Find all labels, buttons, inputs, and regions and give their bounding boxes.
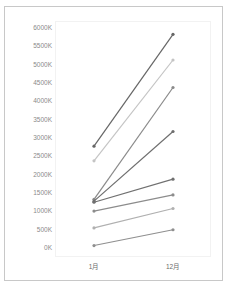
series-line — [94, 209, 173, 228]
data-point-marker — [171, 33, 174, 36]
series-line — [94, 60, 173, 161]
data-point-marker — [171, 58, 174, 61]
line-series — [92, 207, 174, 230]
data-point-marker — [92, 201, 95, 204]
series-line — [94, 34, 173, 146]
line-series — [92, 228, 174, 247]
data-point-marker — [92, 159, 95, 162]
line-series — [92, 58, 174, 162]
series-line — [94, 230, 173, 246]
data-point-marker — [92, 226, 95, 229]
data-point-marker — [171, 178, 174, 181]
line-series-layer — [0, 0, 228, 288]
data-point-marker — [171, 193, 174, 196]
line-series — [92, 130, 174, 203]
data-point-marker — [171, 228, 174, 231]
line-series — [92, 193, 174, 212]
data-point-marker — [171, 86, 174, 89]
line-series — [92, 33, 174, 148]
data-point-marker — [92, 244, 95, 247]
line-series — [92, 86, 174, 201]
data-point-marker — [92, 209, 95, 212]
data-point-marker — [92, 145, 95, 148]
data-point-marker — [171, 130, 174, 133]
line-series — [92, 178, 174, 204]
data-point-marker — [171, 207, 174, 210]
series-line — [94, 195, 173, 211]
